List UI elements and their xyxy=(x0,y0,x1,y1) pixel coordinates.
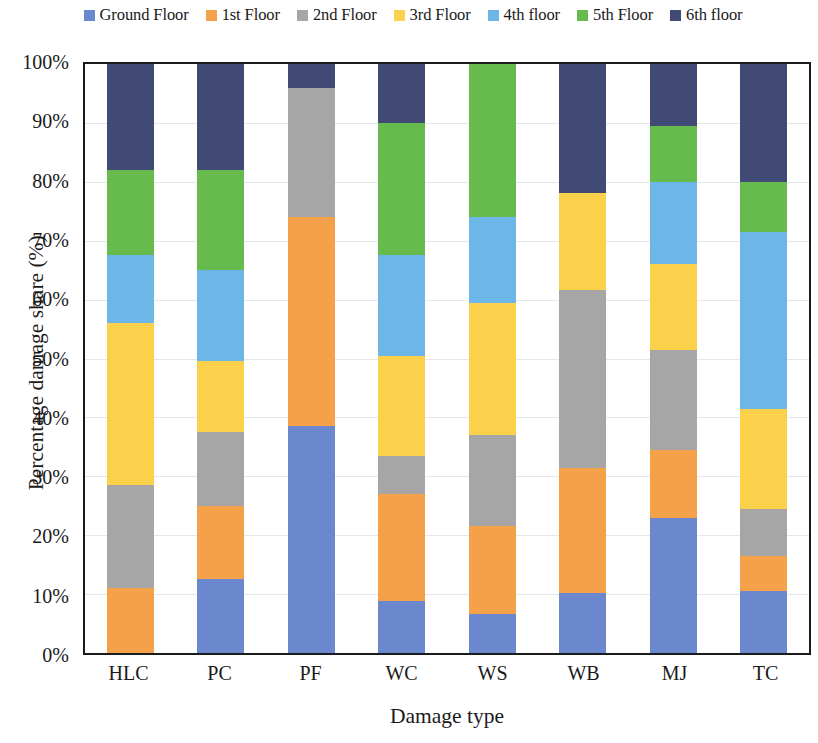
bar-segment[interactable] xyxy=(107,323,154,485)
stacked-bar-group xyxy=(85,64,809,653)
bar-segment[interactable] xyxy=(378,494,425,601)
legend-item[interactable]: 4th floor xyxy=(488,7,560,24)
legend-label: Ground Floor xyxy=(100,7,189,24)
bar-segment[interactable] xyxy=(740,556,787,591)
bar-segment[interactable] xyxy=(378,356,425,456)
legend-label: 6th floor xyxy=(686,7,742,24)
bar-segment[interactable] xyxy=(197,361,244,432)
bar-slot xyxy=(357,64,448,653)
x-axis-tick-label: TC xyxy=(720,663,811,691)
stacked-bar[interactable] xyxy=(107,64,154,653)
bar-segment[interactable] xyxy=(378,123,425,256)
x-axis-tick-label: WS xyxy=(447,663,538,691)
bar-segment[interactable] xyxy=(740,232,787,409)
bar-segment[interactable] xyxy=(650,264,697,349)
bar-slot xyxy=(176,64,267,653)
bar-segment[interactable] xyxy=(107,485,154,588)
y-axis-tick-label: 0% xyxy=(42,645,69,665)
chart-plot-area xyxy=(83,62,811,655)
x-axis-title: Damage type xyxy=(83,706,811,728)
stacked-bar[interactable] xyxy=(197,64,244,653)
y-axis-tick-label: 100% xyxy=(22,52,69,72)
legend-label: 2nd Floor xyxy=(313,7,377,24)
legend-item[interactable]: 5th Floor xyxy=(577,7,653,24)
bar-segment[interactable] xyxy=(197,432,244,506)
bar-segment[interactable] xyxy=(740,509,787,556)
legend-label: 5th Floor xyxy=(593,7,653,24)
bar-segment[interactable] xyxy=(469,435,516,526)
legend-swatch-icon xyxy=(297,10,308,21)
bar-segment[interactable] xyxy=(288,426,335,653)
bar-segment[interactable] xyxy=(378,456,425,494)
stacked-bar[interactable] xyxy=(288,64,335,653)
bar-segment[interactable] xyxy=(650,450,697,518)
x-axis-tick-label: WC xyxy=(356,663,447,691)
bar-segment[interactable] xyxy=(650,350,697,450)
legend-swatch-icon xyxy=(84,10,95,21)
bar-segment[interactable] xyxy=(378,601,425,653)
bar-segment[interactable] xyxy=(378,64,425,123)
bar-segment[interactable] xyxy=(469,217,516,302)
bar-segment[interactable] xyxy=(469,526,516,613)
legend-item[interactable]: 6th floor xyxy=(670,7,742,24)
bar-segment[interactable] xyxy=(650,126,697,182)
y-axis-title: Percentage damage share (%) xyxy=(26,83,48,643)
bar-segment[interactable] xyxy=(559,593,606,653)
legend-item[interactable]: 1st Floor xyxy=(206,7,280,24)
bar-segment[interactable] xyxy=(559,468,606,593)
legend-item[interactable]: Ground Floor xyxy=(84,7,189,24)
bar-segment[interactable] xyxy=(378,255,425,355)
bar-segment[interactable] xyxy=(288,217,335,426)
bar-segment[interactable] xyxy=(740,591,787,653)
bar-segment[interactable] xyxy=(650,64,697,126)
bar-segment[interactable] xyxy=(740,182,787,232)
x-axis-tick-label: MJ xyxy=(629,663,720,691)
chart-legend: Ground Floor1st Floor2nd Floor3rd Floor4… xyxy=(0,0,818,30)
bar-slot xyxy=(538,64,629,653)
x-axis-tick-label: PF xyxy=(265,663,356,691)
legend-swatch-icon xyxy=(577,10,588,21)
legend-item[interactable]: 2nd Floor xyxy=(297,7,377,24)
x-axis-ticks: HLCPCPFWCWSWBMJTC xyxy=(83,663,811,691)
legend-item[interactable]: 3rd Floor xyxy=(394,7,471,24)
legend-swatch-icon xyxy=(206,10,217,21)
bar-segment[interactable] xyxy=(740,409,787,509)
stacked-bar[interactable] xyxy=(559,64,606,653)
bar-segment[interactable] xyxy=(107,64,154,170)
bar-segment[interactable] xyxy=(650,182,697,264)
bar-segment[interactable] xyxy=(469,64,516,217)
legend-swatch-icon xyxy=(488,10,499,21)
bar-slot xyxy=(628,64,719,653)
x-axis-tick-label: PC xyxy=(174,663,265,691)
stacked-bar[interactable] xyxy=(378,64,425,653)
bar-segment[interactable] xyxy=(288,64,335,88)
bar-segment[interactable] xyxy=(197,64,244,170)
legend-label: 3rd Floor xyxy=(410,7,471,24)
bar-segment[interactable] xyxy=(559,64,606,193)
bar-segment[interactable] xyxy=(197,579,244,653)
bar-segment[interactable] xyxy=(107,170,154,255)
legend-label: 1st Floor xyxy=(222,7,280,24)
bar-segment[interactable] xyxy=(197,270,244,361)
bar-segment[interactable] xyxy=(288,88,335,218)
stacked-bar[interactable] xyxy=(740,64,787,653)
bar-segment[interactable] xyxy=(559,193,606,290)
bar-slot xyxy=(85,64,176,653)
legend-label: 4th floor xyxy=(504,7,560,24)
stacked-bar[interactable] xyxy=(650,64,697,653)
bar-segment[interactable] xyxy=(107,588,154,653)
x-axis-tick-label: WB xyxy=(538,663,629,691)
bar-segment[interactable] xyxy=(197,170,244,270)
legend-swatch-icon xyxy=(670,10,681,21)
bar-segment[interactable] xyxy=(650,518,697,653)
bar-segment[interactable] xyxy=(469,303,516,436)
bar-segment[interactable] xyxy=(469,614,516,653)
bar-segment[interactable] xyxy=(107,255,154,323)
bar-slot xyxy=(719,64,810,653)
bar-segment[interactable] xyxy=(559,290,606,468)
stacked-bar[interactable] xyxy=(469,64,516,653)
bar-segment[interactable] xyxy=(197,506,244,580)
bar-segment[interactable] xyxy=(740,64,787,182)
bar-slot xyxy=(266,64,357,653)
x-axis-tick-label: HLC xyxy=(83,663,174,691)
